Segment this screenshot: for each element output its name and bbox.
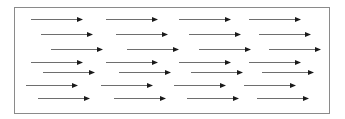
- arrow-head: [77, 17, 83, 22]
- arrow-right-icon: [249, 60, 301, 65]
- arrow-right-icon: [31, 60, 83, 65]
- arrow-right-icon: [38, 96, 90, 101]
- arrow-right-icon: [119, 70, 171, 75]
- arrow-right-icon: [26, 83, 78, 88]
- arrow-right-icon: [116, 32, 168, 37]
- arrow-right-icon: [179, 60, 231, 65]
- arrow-right-icon: [127, 47, 179, 52]
- arrow-head: [295, 60, 301, 65]
- arrow-head: [89, 70, 95, 75]
- arrow-right-icon: [189, 32, 241, 37]
- arrow-head: [290, 83, 296, 88]
- arrow-head: [245, 47, 251, 52]
- arrow-head: [77, 60, 83, 65]
- arrow-head: [303, 96, 309, 101]
- arrow-head: [147, 83, 153, 88]
- arrow-head: [315, 47, 321, 52]
- arrow-right-icon: [199, 47, 251, 52]
- arrow-right-icon: [249, 17, 301, 22]
- arrow-head: [305, 32, 311, 37]
- arrow-head: [220, 83, 226, 88]
- arrow-head: [295, 17, 301, 22]
- arrow-right-icon: [51, 47, 103, 52]
- arrow-head: [152, 60, 158, 65]
- arrow-right-icon: [191, 70, 243, 75]
- arrow-head: [97, 47, 103, 52]
- arrow-right-icon: [41, 32, 93, 37]
- arrow-head: [225, 17, 231, 22]
- arrow-head: [87, 32, 93, 37]
- arrow-head: [160, 96, 166, 101]
- arrow-right-icon: [106, 60, 158, 65]
- arrow-right-icon: [43, 70, 95, 75]
- arrow-right-icon: [179, 17, 231, 22]
- arrow-right-icon: [31, 17, 83, 22]
- arrow-head: [84, 96, 90, 101]
- arrow-head: [233, 96, 239, 101]
- arrow-right-icon: [101, 83, 153, 88]
- arrow-right-icon: [174, 83, 226, 88]
- arrow-head: [165, 70, 171, 75]
- arrow-right-icon: [269, 47, 321, 52]
- arrow-right-icon: [106, 17, 158, 22]
- arrow-right-icon: [187, 96, 239, 101]
- arrow-right-icon: [114, 96, 166, 101]
- arrow-head: [173, 47, 179, 52]
- arrow-head: [72, 83, 78, 88]
- arrow-right-icon: [259, 32, 311, 37]
- arrow-head: [152, 17, 158, 22]
- arrow-head: [162, 32, 168, 37]
- arrow-right-icon: [257, 96, 309, 101]
- arrow-right-icon: [262, 70, 314, 75]
- arrow-head: [225, 60, 231, 65]
- arrow-head: [237, 70, 243, 75]
- arrow-right-icon: [244, 83, 296, 88]
- arrow-head: [308, 70, 314, 75]
- arrow-head: [235, 32, 241, 37]
- flow-arrows: [0, 0, 345, 119]
